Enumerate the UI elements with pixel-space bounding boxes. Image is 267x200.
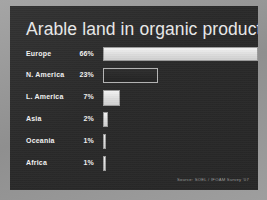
source-note: Source: SOEL / IFOAM Survey '07 [177, 177, 249, 182]
chart-row: Europe 66% [10, 44, 258, 64]
bar-asia [103, 112, 108, 127]
value-label: 1% [70, 153, 94, 173]
bar-africa [103, 156, 106, 171]
page-title: Arable land in organic production [26, 19, 258, 40]
value-label: 7% [70, 87, 94, 107]
bar-oceania [103, 134, 106, 149]
chart-row: Oceania 1% [10, 131, 258, 151]
value-label: 1% [70, 131, 94, 151]
chart-row: Africa 1% [10, 153, 258, 173]
chart-row: Asia 2% [10, 109, 258, 129]
chart-row: N. America 23% [10, 65, 258, 85]
bar-n-america [103, 68, 158, 83]
bar-europe [103, 47, 258, 61]
presentation-slide: Arable land in organic production Europe… [10, 6, 258, 190]
chart-row: L. America 7% [10, 87, 258, 107]
bar-chart: Europe 66% N. America 23% L. America 7% … [10, 44, 258, 174]
bar-l-america [103, 90, 120, 106]
value-label: 23% [70, 65, 94, 85]
value-label: 2% [70, 109, 94, 129]
photo-border: Arable land in organic production Europe… [0, 0, 267, 200]
value-label: 66% [70, 44, 94, 64]
